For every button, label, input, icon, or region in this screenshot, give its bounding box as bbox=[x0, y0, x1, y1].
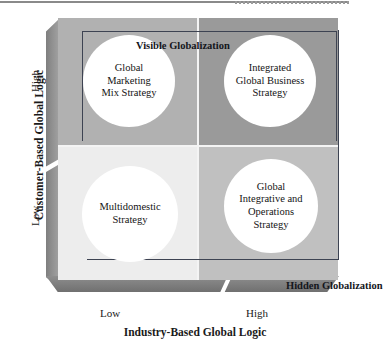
x-axis-tick-high: High bbox=[227, 307, 287, 319]
strategy-label-bottom-left: Multidomestic Strategy bbox=[95, 201, 164, 226]
strategy-label-bottom-right: Global Integrative and Operations Strate… bbox=[235, 181, 306, 231]
band-label-visible-globalization: Visible Globalization bbox=[136, 40, 230, 51]
strategy-circle-integrated-global-business: Integrated Global Business Strategy bbox=[224, 35, 316, 127]
strategy-label-top-right: Integrated Global Business Strategy bbox=[232, 62, 309, 100]
band-label-hidden-globalization: Hidden Globalization bbox=[286, 280, 383, 291]
strategy-label-top-left: Global Marketing Mix Strategy bbox=[97, 62, 160, 100]
y-axis-tick-high: High bbox=[29, 61, 41, 101]
x-axis-title: Industry-Based Global Logic bbox=[45, 326, 345, 338]
y-axis-tick-low: Low bbox=[29, 196, 41, 236]
strategy-circle-multidomestic: Multidomestic Strategy bbox=[82, 166, 178, 262]
strategy-circle-global-integrative-operations: Global Integrative and Operations Strate… bbox=[224, 159, 318, 253]
matrix-body: Global Marketing Mix Strategy Integrated… bbox=[58, 18, 338, 280]
x-axis-tick-low: Low bbox=[80, 307, 140, 319]
